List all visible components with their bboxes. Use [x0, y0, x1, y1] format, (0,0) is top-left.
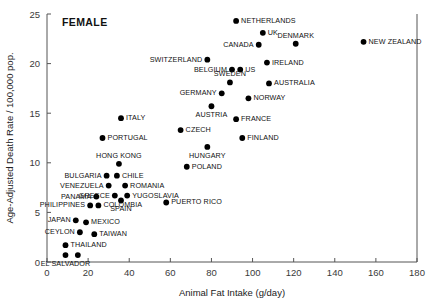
data-point-marker	[239, 135, 245, 141]
data-point-marker	[264, 60, 270, 66]
data-point-marker	[246, 95, 252, 101]
data-point-label: FRANCE	[241, 116, 271, 123]
data-point-label: AUSTRALIA	[274, 80, 315, 87]
data-point-marker	[100, 135, 106, 141]
y-tick-label-15: 15	[29, 108, 40, 119]
x-axis-title: Animal Fat Intake (g/day)	[179, 287, 285, 298]
data-point-marker	[116, 161, 122, 167]
data-point-label: HUNGARY	[189, 152, 226, 159]
data-point-marker	[95, 203, 101, 209]
x-tick-label-180: 180	[409, 267, 425, 278]
data-point-label: CZECH	[186, 126, 211, 133]
data-point-marker	[118, 115, 124, 121]
data-point-label: CEYLON	[45, 229, 75, 236]
data-point-marker	[77, 229, 83, 235]
x-tick-label-40: 40	[124, 267, 135, 278]
data-point-marker	[122, 183, 128, 189]
data-point-label: DENMARK	[277, 32, 314, 39]
data-point-marker	[114, 173, 120, 179]
data-point-label: GERMANY	[180, 90, 217, 97]
series-title: FEMALE	[62, 16, 108, 28]
data-point-label: US	[245, 66, 255, 73]
data-point-marker	[91, 231, 97, 237]
y-tick-label-20: 20	[29, 58, 40, 69]
data-point-label: POLAND	[192, 163, 222, 170]
data-point-label: NORWAY	[253, 95, 285, 102]
data-point-label: VENEZUELA	[60, 182, 104, 189]
data-point-marker	[83, 219, 89, 225]
data-point-marker	[219, 90, 225, 96]
data-point-marker	[104, 173, 110, 179]
data-point-marker	[260, 30, 266, 36]
data-point-marker	[63, 252, 69, 258]
x-tick-label-80: 80	[206, 267, 217, 278]
data-point-marker	[227, 80, 233, 86]
x-tick-label-120: 120	[286, 267, 302, 278]
data-point-label: CHILE	[122, 172, 144, 179]
data-point-label: HONG KONG	[96, 152, 142, 159]
data-point-marker	[266, 81, 272, 87]
x-tick-label-160: 160	[368, 267, 384, 278]
data-point-label: PANAMA	[61, 193, 91, 200]
y-tick-label-10: 10	[29, 157, 40, 168]
data-point-marker	[163, 200, 169, 206]
data-point-label: SWEDEN	[214, 70, 246, 77]
data-point-marker	[184, 164, 190, 170]
data-point-marker	[233, 18, 239, 24]
data-point-marker	[204, 144, 210, 150]
x-tick-label-60: 60	[165, 267, 176, 278]
data-point-marker	[63, 242, 69, 248]
data-point-label: NEW ZEALAND	[369, 38, 422, 45]
data-point-label: PHILIPPINES	[40, 202, 85, 209]
x-tick-label-100: 100	[245, 267, 261, 278]
data-point-label: EL SALVADOR	[41, 260, 91, 267]
x-tick-label-0: 0	[44, 267, 49, 278]
x-tick-label-140: 140	[327, 267, 343, 278]
data-point-marker	[124, 193, 130, 199]
data-point-label: ITALY	[126, 115, 145, 122]
data-point-marker	[112, 193, 118, 199]
data-point-label: FINLAND	[247, 134, 278, 141]
data-point-label: PORTUGAL	[108, 134, 148, 141]
data-point-marker	[209, 103, 215, 109]
data-point-label: AUSTRIA	[196, 111, 228, 118]
data-point-label: JAPAN	[48, 217, 71, 224]
data-point-label: SWITZERLAND	[150, 56, 203, 63]
data-point-marker	[106, 183, 112, 189]
data-point-marker	[178, 127, 184, 133]
data-point-label: MEXICO	[91, 219, 120, 226]
data-point-label: TAIWAN	[99, 231, 127, 238]
scatter-plot-figure: 0204060801001201401601800510152025 Anima…	[0, 0, 440, 308]
data-point-marker	[361, 39, 367, 45]
data-point-marker	[87, 203, 93, 209]
data-point-marker	[204, 57, 210, 63]
data-point-marker	[73, 217, 79, 223]
data-point-label: CANADA	[223, 41, 254, 48]
y-axis-title: Age-Adjusted Death Rate / 100,000 pop.	[4, 52, 15, 223]
data-point-marker	[293, 41, 299, 47]
data-point-label: IRELAND	[272, 59, 304, 66]
data-point-label: COLOMBIA	[103, 202, 142, 209]
data-point-label: ROMANIA	[130, 182, 164, 189]
data-point-label: BULGARIA	[64, 172, 101, 179]
data-point-marker	[75, 252, 81, 258]
data-point-label: PUERTO RICO	[171, 199, 222, 206]
data-point-label: NETHERLANDS	[241, 17, 296, 24]
data-point-marker	[256, 42, 262, 48]
data-point-label: THAILAND	[71, 242, 107, 249]
data-point-marker	[233, 116, 239, 122]
x-tick-label-20: 20	[83, 267, 94, 278]
y-tick-label-25: 25	[29, 9, 40, 20]
y-tick-label-0: 0	[35, 257, 40, 268]
